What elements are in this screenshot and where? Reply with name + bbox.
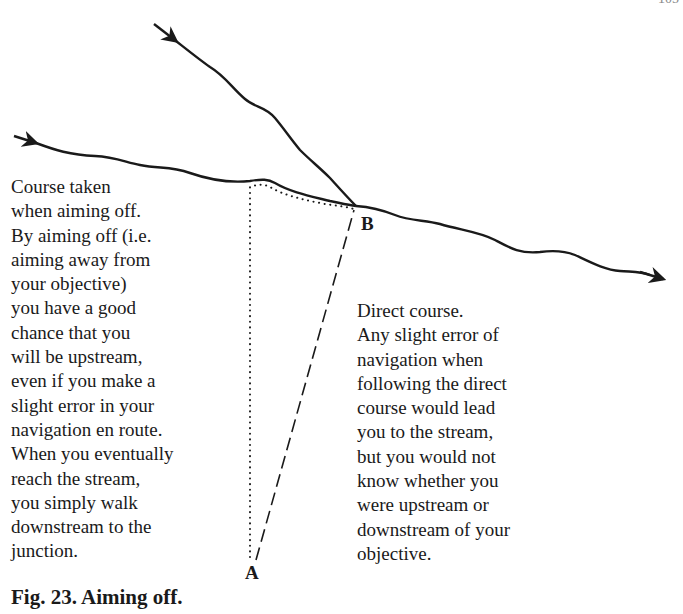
point-a-label: A: [245, 562, 259, 584]
tributary-stream: [154, 24, 356, 206]
page-number: 105: [658, 0, 679, 7]
direct-course-caption: Direct course. Any slight error of navig…: [357, 299, 510, 566]
aiming-off-caption: Course taken when aiming off. By aiming …: [11, 175, 174, 564]
aiming-off-route: [250, 185, 356, 557]
direct-route: [256, 210, 354, 560]
figure-title: Fig. 23. Aiming off.: [11, 585, 183, 610]
point-b-label: B: [361, 213, 374, 235]
